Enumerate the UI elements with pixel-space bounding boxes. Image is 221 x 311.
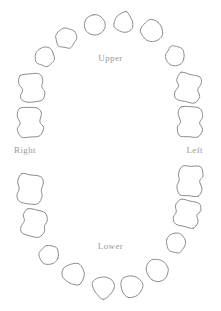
arch-label-upper: Upper — [0, 53, 221, 63]
tooth-lower-right-incisor[interactable] — [92, 277, 115, 300]
tooth-lower-left-canine[interactable] — [142, 256, 172, 285]
dental-chart: Upper Lower Right Left — [0, 0, 221, 311]
tooth-outline — [171, 198, 202, 230]
tooth-outline — [137, 16, 167, 46]
tooth-upper-right-incisor[interactable] — [113, 10, 135, 34]
tooth-upper-right-molar[interactable] — [17, 71, 47, 104]
tooth-outline — [16, 106, 45, 138]
tooth-upper-right-molar[interactable] — [16, 106, 45, 138]
tooth-outline — [142, 256, 172, 285]
tooth-lower-right-molar[interactable] — [19, 207, 49, 239]
tooth-outline — [59, 260, 89, 290]
tooth-outline — [173, 71, 203, 104]
tooth-lower-left-molar[interactable] — [171, 198, 202, 230]
tooth-upper-left-canine[interactable] — [137, 16, 167, 46]
tooth-lower-right-incisor[interactable] — [59, 260, 89, 290]
tooth-outline — [117, 273, 144, 300]
arch-label-lower: Lower — [0, 241, 221, 251]
tooth-upper-left-molar[interactable] — [173, 71, 203, 104]
odontogram-svg — [0, 0, 221, 311]
tooth-outline — [92, 277, 115, 300]
tooth-outline — [17, 173, 44, 205]
arch-label-left: Left — [186, 145, 203, 155]
tooth-outline — [176, 106, 204, 138]
tooth-outline — [17, 71, 47, 104]
tooth-outline — [113, 10, 135, 34]
tooth-lower-left-molar[interactable] — [176, 165, 203, 197]
tooth-outline — [51, 24, 81, 53]
tooth-outline — [176, 165, 203, 197]
tooth-outline — [82, 12, 108, 37]
tooth-lower-right-molar[interactable] — [17, 173, 44, 205]
tooth-upper-right-canine[interactable] — [82, 12, 108, 37]
tooth-lower-left-incisor[interactable] — [117, 273, 144, 300]
tooth-upper-left-molar[interactable] — [176, 106, 204, 138]
tooth-outline — [19, 207, 49, 239]
tooth-upper-right-premolar[interactable] — [51, 24, 81, 53]
arch-label-right: Right — [14, 145, 36, 155]
